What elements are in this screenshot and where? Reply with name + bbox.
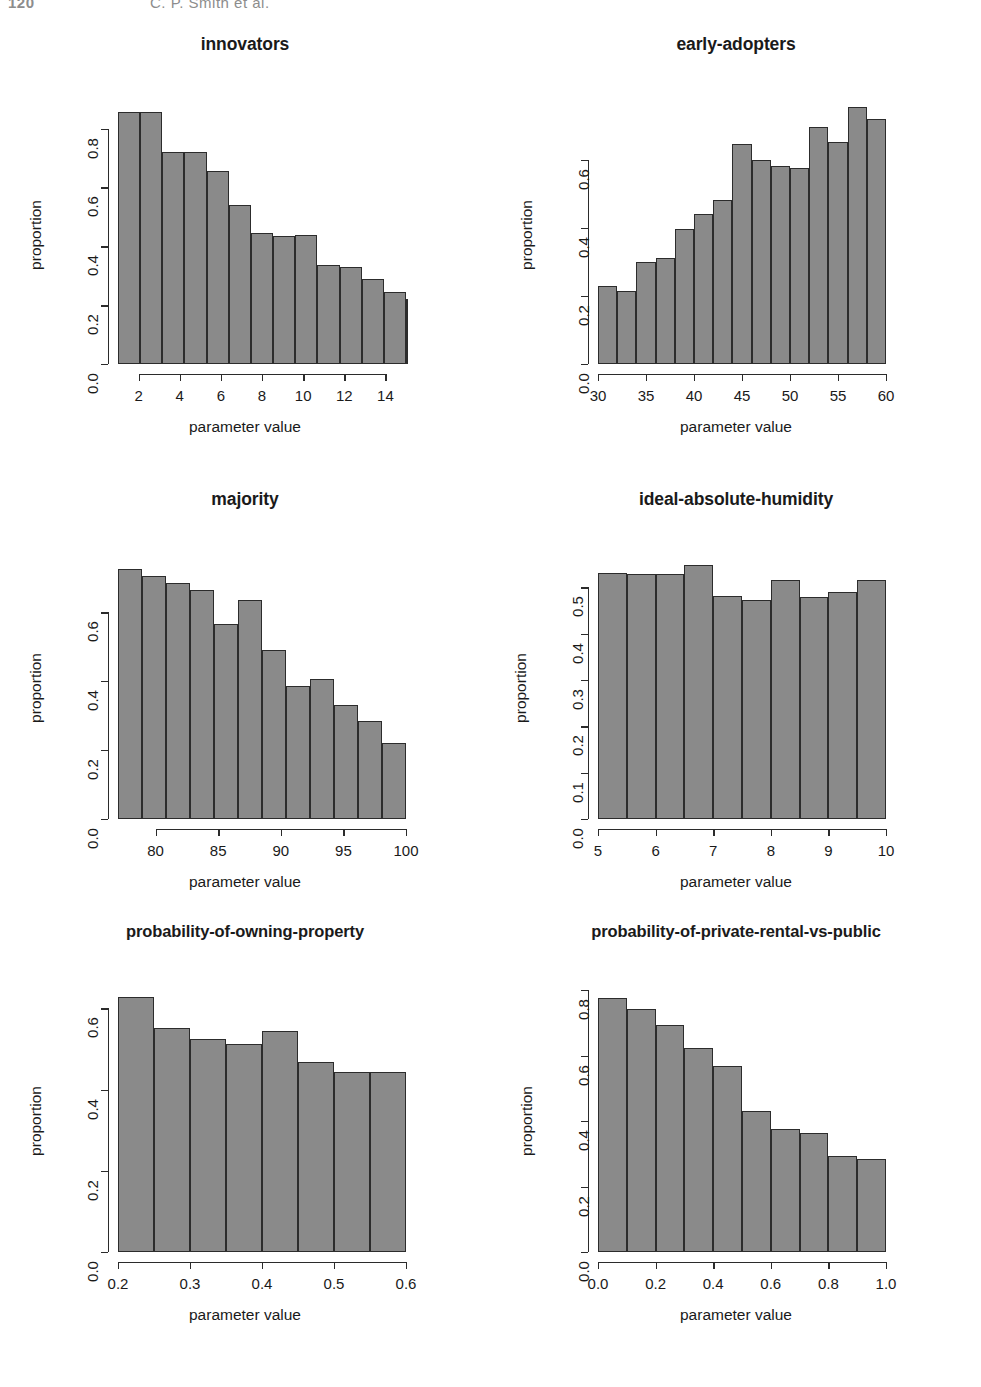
histogram-bar bbox=[848, 107, 867, 364]
chart-title: majority bbox=[0, 489, 490, 510]
histogram-bar bbox=[627, 1009, 656, 1252]
histogram-bar bbox=[800, 597, 829, 819]
histogram-bar bbox=[742, 600, 771, 819]
chart-title: innovators bbox=[0, 34, 490, 55]
x-axis-tick-label: 60 bbox=[861, 387, 911, 404]
y-axis-tick bbox=[101, 364, 108, 365]
histogram-bar bbox=[229, 205, 251, 364]
x-axis-tick-label: 80 bbox=[131, 842, 181, 859]
x-axis-tick bbox=[262, 1262, 263, 1269]
y-axis-tick-label: 0.8 bbox=[575, 990, 592, 1030]
x-axis-tick-label: 0.6 bbox=[381, 1275, 431, 1292]
panel-probability-of-private-rental-vs-public: probability-of-private-rental-vs-public0… bbox=[491, 910, 981, 1365]
panel-innovators: innovators0.00.20.40.60.82468101214propo… bbox=[0, 22, 490, 477]
x-axis-tick-label: 0.2 bbox=[93, 1275, 143, 1292]
histogram-bar bbox=[828, 592, 857, 819]
x-axis-tick bbox=[838, 374, 839, 381]
histogram-bar bbox=[310, 679, 334, 819]
y-axis-tick-label: 0.2 bbox=[84, 305, 101, 345]
histogram-bar bbox=[317, 265, 339, 364]
y-axis-tick bbox=[101, 246, 108, 247]
x-axis-tick-label: 5 bbox=[573, 842, 623, 859]
x-axis-label: parameter value bbox=[491, 418, 981, 436]
panel-majority: majority0.00.20.40.680859095100proportio… bbox=[0, 477, 490, 932]
x-axis-tick-label: 40 bbox=[669, 387, 719, 404]
x-axis-tick-label: 0.0 bbox=[573, 1275, 623, 1292]
histogram-bar bbox=[684, 565, 713, 819]
x-axis-tick bbox=[713, 829, 714, 836]
y-axis-tick-label: 0.6 bbox=[84, 612, 101, 652]
y-axis-label: proportion bbox=[512, 648, 530, 728]
x-axis-tick-label: 0.4 bbox=[688, 1275, 738, 1292]
x-axis-tick bbox=[886, 829, 887, 836]
x-axis-line bbox=[598, 829, 886, 830]
chart-title: probability-of-owning-property bbox=[0, 922, 490, 941]
y-axis-line bbox=[108, 129, 109, 364]
x-axis-tick-label: 85 bbox=[193, 842, 243, 859]
y-axis-tick-label: 0.6 bbox=[84, 187, 101, 227]
histogram-bar bbox=[771, 1129, 800, 1252]
histogram-bar bbox=[809, 127, 828, 364]
histogram-bar bbox=[382, 743, 406, 819]
histogram-bar bbox=[118, 997, 154, 1252]
x-axis-tick bbox=[790, 374, 791, 381]
histogram-bar bbox=[656, 1025, 685, 1252]
panel-early-adopters: early-adopters0.00.20.40.630354045505560… bbox=[491, 22, 981, 477]
x-axis-tick bbox=[886, 374, 887, 381]
x-axis-tick-label: 0.8 bbox=[803, 1275, 853, 1292]
histogram-bar bbox=[118, 112, 140, 364]
x-axis-tick bbox=[262, 374, 263, 381]
x-axis-tick bbox=[656, 829, 657, 836]
histogram-bar bbox=[713, 1066, 742, 1252]
histogram-bar bbox=[184, 152, 206, 364]
x-axis-tick-label: 9 bbox=[803, 842, 853, 859]
page-folio: 120 bbox=[8, 0, 35, 11]
x-axis-tick-label: 0.2 bbox=[631, 1275, 681, 1292]
running-head: C. P. Smith et al. bbox=[150, 0, 270, 11]
histogram-bar bbox=[298, 1062, 334, 1252]
histogram-bar bbox=[857, 580, 886, 819]
y-axis-tick-label: 0.6 bbox=[84, 1008, 101, 1048]
histogram-bar bbox=[742, 1111, 771, 1252]
y-axis-tick-label: 0.4 bbox=[84, 246, 101, 286]
y-axis-tick-label: 0.2 bbox=[84, 1170, 101, 1210]
x-axis-tick-label: 7 bbox=[688, 842, 738, 859]
y-axis-line bbox=[588, 587, 589, 819]
y-axis-tick-label: 0.2 bbox=[575, 295, 592, 335]
y-axis-line bbox=[108, 1008, 109, 1252]
histogram-bar bbox=[334, 705, 358, 819]
y-axis-tick bbox=[101, 750, 108, 751]
x-axis-tick-label: 50 bbox=[765, 387, 815, 404]
x-axis-label: parameter value bbox=[491, 1306, 981, 1324]
histogram-bar bbox=[713, 596, 742, 819]
y-axis-tick-label: 0.6 bbox=[575, 1055, 592, 1095]
histogram-bar bbox=[334, 1072, 370, 1252]
x-axis-tick bbox=[281, 829, 282, 836]
y-axis-tick bbox=[101, 129, 108, 130]
histogram-bar bbox=[340, 267, 362, 364]
x-axis-tick-label: 30 bbox=[573, 387, 623, 404]
histogram-bar bbox=[190, 590, 214, 819]
y-axis-tick bbox=[101, 681, 108, 682]
y-axis-tick bbox=[101, 1008, 108, 1009]
y-axis-tick-label: 0.4 bbox=[569, 633, 586, 673]
histogram-bar bbox=[162, 152, 184, 364]
y-axis-tick-label: 0.0 bbox=[84, 819, 101, 859]
x-axis-tick bbox=[828, 829, 829, 836]
histogram-bar bbox=[142, 576, 166, 819]
x-axis-tick bbox=[385, 374, 386, 381]
x-axis-tick bbox=[598, 829, 599, 836]
x-axis-tick-label: 0.6 bbox=[746, 1275, 796, 1292]
y-axis-tick-label: 0.2 bbox=[84, 750, 101, 790]
histogram-bar bbox=[273, 236, 295, 364]
x-axis-tick-label: 0.3 bbox=[165, 1275, 215, 1292]
histogram-bar bbox=[684, 1048, 713, 1252]
page-header: 120 C. P. Smith et al. bbox=[0, 0, 981, 22]
chart-title: ideal-absolute-humidity bbox=[491, 489, 981, 510]
x-axis-tick-label: 95 bbox=[318, 842, 368, 859]
histogram-bar bbox=[598, 573, 627, 819]
y-axis-label: proportion bbox=[27, 195, 45, 275]
histogram-bar bbox=[207, 171, 229, 364]
y-axis-tick-label: 0.3 bbox=[569, 679, 586, 719]
x-axis-tick bbox=[180, 374, 181, 381]
